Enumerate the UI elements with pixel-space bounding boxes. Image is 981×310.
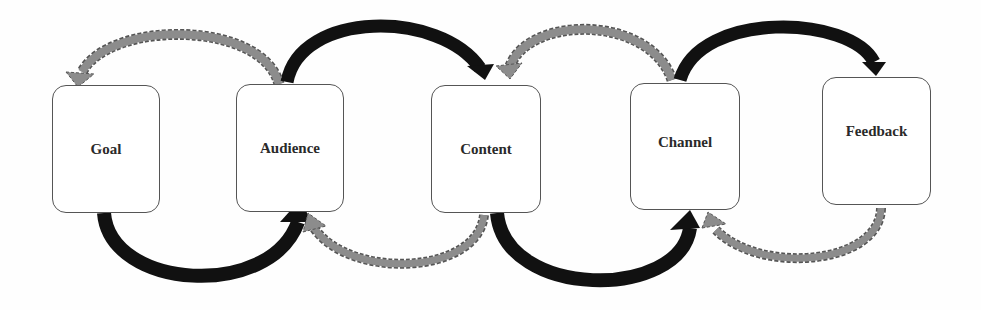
node-goal: Goal xyxy=(52,85,160,213)
node-goal-label: Goal xyxy=(91,141,122,158)
arrow-audience-to-content xyxy=(287,26,494,82)
arrow-feedback-to-channel xyxy=(702,208,881,258)
arrow-channel-to-feedback xyxy=(680,27,886,80)
node-channel: Channel xyxy=(630,83,740,210)
node-feedback-label: Feedback xyxy=(846,123,908,140)
communication-cycle-diagram: Goal Audience Content Channel Feedback xyxy=(0,0,981,310)
node-audience: Audience xyxy=(236,84,344,212)
node-feedback: Feedback xyxy=(822,77,931,205)
node-channel-label: Channel xyxy=(658,134,712,151)
arrow-audience-to-goal xyxy=(66,34,279,87)
arrow-channel-to-content xyxy=(496,29,672,80)
node-audience-label: Audience xyxy=(260,140,320,157)
node-content: Content xyxy=(431,85,541,213)
arrow-content-to-channel xyxy=(497,210,700,280)
node-content-label: Content xyxy=(460,141,512,158)
arrow-content-to-audience xyxy=(303,213,484,264)
